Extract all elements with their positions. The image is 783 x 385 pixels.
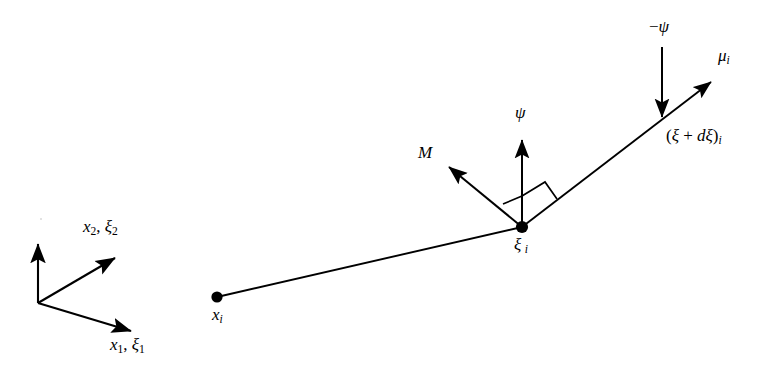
vector-negative-psi-label: −ψ (649, 18, 669, 35)
axis-x1-xi1-line (38, 303, 131, 331)
right-angle-markers (503, 182, 557, 218)
moment-arrow-primary (449, 167, 522, 227)
node-xi-i-dot (516, 221, 528, 233)
vector-psi-label: ψ (515, 104, 526, 121)
node-xi-dot (211, 291, 222, 302)
beam-segment-lower (217, 227, 522, 297)
axis-x1-xi1-label: x1, ξ1 (110, 336, 145, 356)
label-xi-plus-dxi: (ξ + dξ)i (666, 127, 722, 147)
vector-moment-label: M (418, 144, 432, 161)
figure-root: x2, ξ2 x1, ξ1 xi ξ i ψ −ψ M μi (ξ + dξ)i (0, 0, 783, 385)
vector-mu-label: μi (718, 47, 730, 67)
beam-segment-upper-mu (522, 82, 711, 227)
node-xi-label: xi (212, 306, 223, 326)
right-angle-marker-right (522, 182, 557, 199)
beam-element (217, 82, 711, 297)
coordinate-triad (38, 244, 131, 331)
node-xi-i-label: ξ i (514, 236, 528, 256)
vector-moment-M (449, 167, 522, 227)
axis-x2-xi2-label: x2, ξ2 (83, 218, 118, 238)
diagram-canvas (0, 0, 783, 385)
axis-x2-xi2-line (38, 258, 115, 303)
